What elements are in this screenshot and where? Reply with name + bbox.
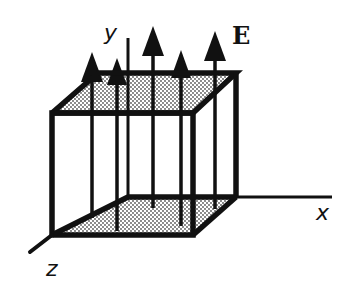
arrowhead-5-icon [204,31,226,61]
x-axis-label: x [315,200,330,225]
bottom-face-shaded [52,197,236,235]
arrowhead-3-icon [142,26,164,56]
y-axis-label: y [103,20,118,45]
field-e-label: E [232,21,250,50]
top-face-shaded [52,73,236,113]
electric-flux-cube-diagram: y x z E [0,0,354,289]
z-axis-label: z [45,256,58,281]
z-axis [30,235,52,252]
